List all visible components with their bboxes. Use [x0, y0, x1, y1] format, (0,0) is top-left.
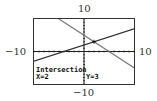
y-readout: Y=3	[86, 74, 99, 81]
x-min-label: −10	[5, 47, 26, 57]
y-min-label: −10	[73, 88, 94, 98]
x-readout: X=2	[36, 74, 49, 81]
graph-screen: Intersection X=2 Y=3	[33, 18, 135, 85]
plot-area	[34, 19, 134, 84]
x-max-label: 10	[139, 47, 152, 57]
y-max-label: 10	[78, 4, 91, 14]
